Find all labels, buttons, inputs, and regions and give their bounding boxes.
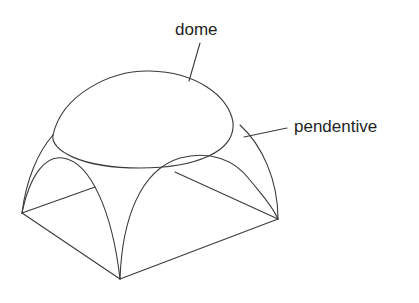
dome-label: dome	[175, 21, 218, 38]
base-edge-front-left	[22, 213, 120, 279]
arch-right	[120, 155, 278, 279]
outer-left-arch	[22, 135, 53, 213]
base-edge-front-right	[120, 219, 278, 279]
outer-right-arch	[240, 125, 278, 219]
pendentive-leader-line	[244, 128, 287, 137]
pendentive-label: pendentive	[294, 118, 377, 135]
diagram-drawing	[0, 0, 419, 303]
dome-pendentive-diagram: dome pendentive	[0, 0, 419, 303]
dome-base-ellipse	[53, 122, 233, 168]
dome-leader-line	[189, 43, 200, 81]
arch-left	[22, 158, 120, 279]
dome-upper-arc	[53, 71, 233, 135]
base-edge-back-left	[22, 187, 95, 213]
